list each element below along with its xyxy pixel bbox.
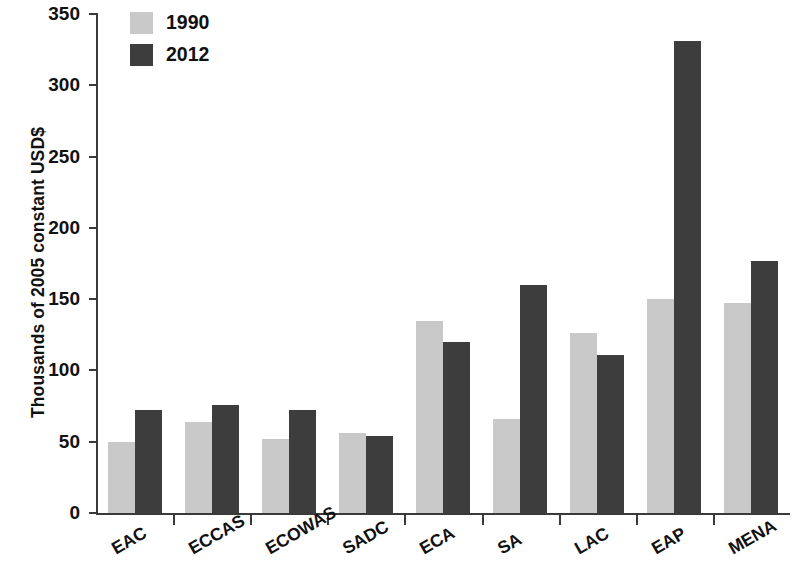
y-axis-tick-label: 150 <box>28 289 80 308</box>
legend-label-1990: 1990 <box>166 13 209 33</box>
y-axis-tick-label: 100 <box>28 360 80 379</box>
y-axis-tick-label: 350 <box>28 4 80 23</box>
y-axis-tick-mark <box>89 84 98 86</box>
bar-lac-2012 <box>597 355 624 513</box>
x-axis-tick-mark <box>482 515 484 525</box>
bar-sadc-2012 <box>366 436 393 513</box>
y-axis-tick-mark <box>89 13 98 15</box>
x-axis-label-eac: EAC <box>108 523 151 560</box>
x-axis-label-eccas: ECCAS <box>185 510 249 559</box>
bar-eac-2012 <box>135 410 162 513</box>
y-axis-tick-mark <box>89 512 98 514</box>
bar-mena-2012 <box>751 261 778 513</box>
x-axis-label-lac: LAC <box>571 523 613 559</box>
x-axis-label-eap: EAP <box>648 523 690 559</box>
y-axis-tick-mark <box>89 369 98 371</box>
bar-eccas-2012 <box>212 405 239 513</box>
y-axis-tick-label: 50 <box>28 432 80 451</box>
y-axis-title: Thousands of 2005 constant USD$ <box>28 63 49 483</box>
legend-swatch-1990-icon <box>130 12 153 34</box>
bar-eap-1990 <box>647 299 674 513</box>
x-axis-label-mena: MENA <box>725 515 780 559</box>
y-axis-tick-label: 0 <box>28 503 80 522</box>
y-axis-tick-mark <box>89 441 98 443</box>
bar-lac-1990 <box>570 333 597 513</box>
bar-eap-2012 <box>674 41 701 513</box>
y-axis-tick-mark <box>89 298 98 300</box>
y-axis-tick-label: 200 <box>28 218 80 237</box>
legend-swatch-2012-icon <box>130 44 153 66</box>
bar-sadc-1990 <box>339 433 366 513</box>
x-axis-tick-mark <box>636 515 638 525</box>
x-axis-tick-mark <box>559 515 561 525</box>
y-axis-tick-label: 250 <box>28 147 80 166</box>
bar-mena-1990 <box>724 303 751 513</box>
bar-ecowas-1990 <box>262 439 289 513</box>
x-axis-label-sa: SA <box>494 529 526 559</box>
legend-item-1990[interactable]: 1990 <box>130 12 209 34</box>
bar-ecowas-2012 <box>289 410 316 513</box>
x-axis-tick-mark <box>250 515 252 525</box>
x-axis-line <box>96 513 790 515</box>
bar-sa-1990 <box>493 419 520 513</box>
bar-sa-2012 <box>520 285 547 513</box>
y-axis-tick-label: 300 <box>28 75 80 94</box>
y-axis-tick-mark <box>89 156 98 158</box>
x-axis-tick-mark <box>713 515 715 525</box>
x-axis-label-sadc: SADC <box>339 516 392 559</box>
x-axis-tick-mark <box>173 515 175 525</box>
legend-item-2012[interactable]: 2012 <box>130 44 209 66</box>
bar-eca-2012 <box>443 342 470 513</box>
bar-eca-1990 <box>416 321 443 513</box>
legend-label-2012: 2012 <box>166 45 209 65</box>
bar-eccas-1990 <box>185 422 212 513</box>
bar-chart-figure: Thousands of 2005 constant USD$ 05010015… <box>0 0 800 581</box>
x-axis-label-eca: ECA <box>416 523 459 560</box>
y-axis-tick-mark <box>89 227 98 229</box>
bar-eac-1990 <box>108 442 135 513</box>
x-axis-tick-mark <box>404 515 406 525</box>
